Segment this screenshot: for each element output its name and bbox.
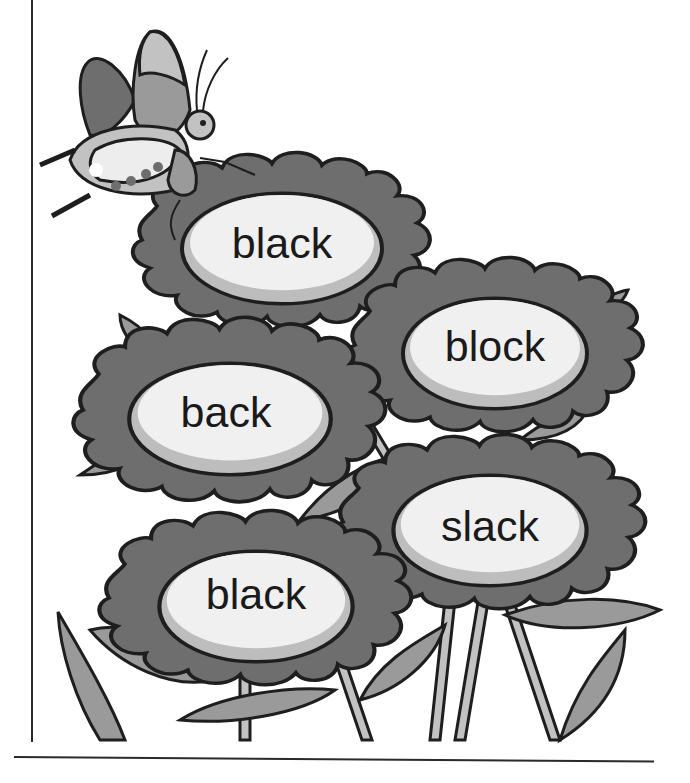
flower-word-3: back [151, 391, 301, 434]
flowers-illustration [0, 0, 690, 783]
flower-word-2: block [420, 325, 570, 368]
flower-word-1: black [207, 222, 357, 265]
flower-word-5: black [181, 573, 331, 616]
flower-word-4: slack [415, 505, 565, 548]
